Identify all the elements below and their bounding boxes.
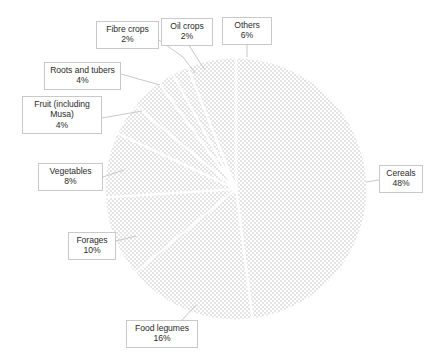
callout-forages-value: 10% (73, 245, 111, 255)
callout-oil-crops-label: Oil crops (166, 21, 208, 31)
callout-roots-and-tubers[interactable]: Roots and tubers 4% (44, 62, 121, 90)
pie-chart-figure: Fibre crops 2% Oil crops 2% Others 6% Ro… (0, 0, 426, 354)
callout-roots-and-tubers-label: Roots and tubers (49, 65, 116, 75)
callout-fruit-label-line2: Musa) (27, 109, 97, 119)
callout-forages-label: Forages (73, 235, 111, 245)
callout-fibre-crops[interactable]: Fibre crops 2% (96, 21, 159, 49)
callout-others-value: 6% (227, 30, 267, 40)
callout-others[interactable]: Others 6% (222, 17, 272, 45)
callout-forages[interactable]: Forages 10% (68, 232, 116, 260)
leader-line-roots (121, 74, 160, 85)
callout-cereals-label: Cereals (384, 168, 418, 178)
callout-vegetables-value: 8% (43, 176, 98, 186)
callout-roots-and-tubers-value: 4% (49, 75, 116, 85)
callout-others-label: Others (227, 20, 267, 30)
pie-slice-texture (236, 58, 367, 320)
callout-fruit-value: 4% (27, 120, 97, 130)
callout-vegetables[interactable]: Vegetables 8% (38, 163, 103, 191)
callout-food-legumes-value: 16% (131, 333, 193, 343)
callout-cereals[interactable]: Cereals 48% (379, 165, 423, 193)
callout-food-legumes-label: Food legumes (131, 323, 193, 333)
callout-oil-crops-value: 2% (166, 31, 208, 41)
callout-fibre-crops-label: Fibre crops (101, 24, 154, 34)
callout-vegetables-label: Vegetables (43, 166, 98, 176)
callout-fibre-crops-value: 2% (101, 34, 154, 44)
callout-fruit-including-musa[interactable]: Fruit (including Musa) 4% (22, 96, 102, 134)
callout-cereals-value: 48% (384, 178, 418, 188)
pie-slices-group (105, 57, 368, 320)
callout-oil-crops[interactable]: Oil crops 2% (161, 18, 213, 46)
callout-food-legumes[interactable]: Food legumes 16% (126, 320, 198, 348)
callout-fruit-label-line1: Fruit (including (27, 99, 97, 109)
